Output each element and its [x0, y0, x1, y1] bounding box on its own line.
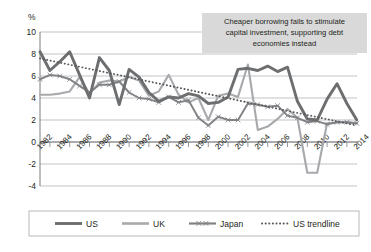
legend-label-japan: Japan	[220, 219, 243, 229]
callout-line: Cheaper borrowing fails to stimulate	[224, 17, 345, 26]
y-tick-label: -2	[28, 159, 36, 169]
chart-container: % 10 8 6 4 2 0 -2 -4	[0, 0, 371, 252]
y-tick-label: 2	[31, 115, 36, 125]
y-axis-unit-label: %	[28, 12, 36, 22]
callout-line: economies instead	[253, 39, 316, 48]
chart-legend: US UK Japan US trendline	[29, 211, 359, 236]
line-chart: % 10 8 6 4 2 0 -2 -4	[0, 0, 371, 252]
legend-label-uk: UK	[153, 219, 165, 229]
legend-label-us: US	[86, 219, 98, 229]
callout-line: capital investment, supporting debt	[226, 28, 344, 37]
y-tick-label: 10	[27, 27, 37, 37]
callout-annotation: Cheaper borrowing fails to stimulate cap…	[202, 13, 367, 53]
y-tick-label: -4	[28, 181, 36, 191]
y-tick-label: 8	[31, 49, 36, 59]
y-tick-label: 4	[31, 93, 36, 103]
y-tick-label: 6	[31, 71, 36, 81]
legend-label-us-trendline: US trendline	[293, 219, 340, 229]
